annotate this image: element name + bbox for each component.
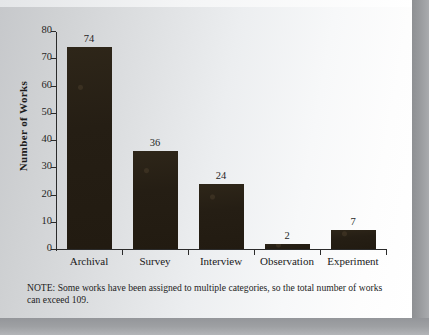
- x-tick-mark: [320, 250, 321, 255]
- bar-value-label: 7: [350, 216, 355, 227]
- bar-group: 2Observation: [254, 31, 320, 250]
- x-axis-category-label: Observation: [260, 255, 314, 267]
- bar: 7: [331, 230, 376, 249]
- y-tick-label: 0: [47, 242, 52, 253]
- x-tick-mark: [122, 250, 123, 255]
- bar-value-label: 36: [150, 137, 161, 148]
- x-axis-category-label: Experiment: [327, 255, 378, 267]
- bar-chart: Number of Works 0102030405060708074Archi…: [0, 0, 412, 318]
- x-axis-category-label: Survey: [139, 255, 170, 267]
- bar-group: 74Archival: [56, 31, 122, 250]
- bar-group: 24Interview: [188, 31, 254, 250]
- y-tick-label: 60: [42, 79, 53, 90]
- y-tick-label: 50: [42, 106, 53, 117]
- y-tick-label: 20: [42, 188, 53, 199]
- bar: 74: [67, 47, 112, 249]
- bar-group: 36Survey: [122, 31, 188, 250]
- bar: 2: [265, 244, 310, 249]
- bar-value-label: 24: [216, 170, 227, 181]
- x-tick-mark: [386, 250, 387, 255]
- y-tick-label: 40: [42, 133, 53, 144]
- bar-value-label: 2: [284, 230, 289, 241]
- bar-group: 7Experiment: [320, 31, 386, 250]
- y-tick-label: 10: [42, 215, 53, 226]
- x-tick-mark: [254, 250, 255, 255]
- y-tick-label: 80: [42, 24, 53, 35]
- y-axis-title: Number of Works: [17, 56, 29, 196]
- y-tick-label: 30: [42, 160, 53, 171]
- bar: 36: [133, 151, 178, 249]
- figure-note: NOTE: Some works have been assigned to m…: [27, 282, 383, 307]
- figure-page: Number of Works 0102030405060708074Archi…: [0, 0, 429, 335]
- scan-edge-bottom: [0, 318, 429, 335]
- bar-value-label: 74: [84, 33, 95, 44]
- bar: 24: [199, 184, 244, 249]
- x-axis-category-label: Archival: [70, 255, 108, 267]
- x-tick-mark: [188, 250, 189, 255]
- scan-edge-right: [412, 0, 429, 335]
- plot-area: 0102030405060708074Archival36Survey24Int…: [56, 32, 386, 250]
- y-tick-label: 70: [42, 51, 53, 62]
- x-axis-category-label: Interview: [200, 255, 242, 267]
